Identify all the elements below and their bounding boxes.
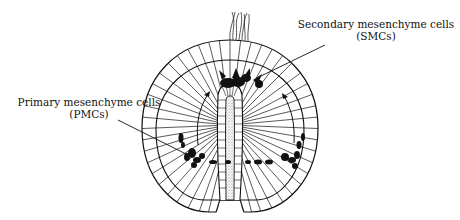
apical-tuft-icon — [230, 12, 249, 41]
archenteron — [217, 84, 242, 200]
smc-label-line2: (SMCs) — [296, 30, 456, 42]
pmc-label-line2: (PMCs) — [14, 108, 164, 120]
pmc-label: Primary mesenchyme cells (PMCs) — [14, 96, 164, 120]
smc-label: Secondary mesenchyme cells (SMCs) — [296, 18, 456, 42]
smc-label-line1: Secondary mesenchyme cells — [296, 18, 456, 30]
pmc-label-line1: Primary mesenchyme cells — [14, 96, 164, 108]
